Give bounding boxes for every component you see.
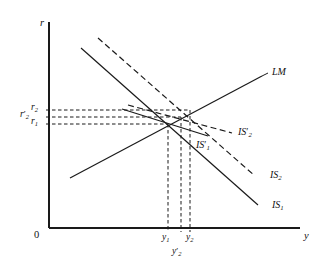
curve-label-IS1: IS1 [272, 200, 284, 212]
tick-y2p-sub: 2 [178, 250, 181, 257]
tick-label-r1: r1 [31, 117, 38, 127]
is-lm-figure: r y 0 r2 r′2 r1 y1 y2 y′2 LM IS′2 IS′1 I… [0, 0, 320, 266]
curve-label-IS2-prime: IS′2 [238, 127, 252, 139]
curve-label-IS2: IS2 [270, 170, 282, 182]
tick-r2p-sub: 2 [26, 113, 29, 120]
curve-LM-base: LM [272, 66, 286, 77]
y-axis-label: r [40, 18, 44, 29]
tick-label-y2-prime: y′2 [172, 247, 181, 257]
tick-label-y1: y1 [162, 233, 169, 243]
tick-r1-sub: 1 [35, 120, 38, 127]
curve-IS1 [81, 48, 258, 205]
curve-label-IS1-prime: IS′1 [196, 140, 210, 152]
leader-LM [262, 73, 268, 76]
label-leaders [262, 73, 268, 76]
origin-label: 0 [34, 230, 39, 241]
curve-label-LM: LM [272, 67, 286, 77]
curve-IS1-sub: 1 [280, 204, 283, 211]
plot-canvas [0, 0, 320, 266]
curve-IS2p-sub: 2 [248, 131, 251, 138]
curve-IS2 [98, 38, 255, 176]
curve-IS2-sub: 2 [278, 174, 281, 181]
curve-IS1p-sub: 1 [206, 144, 209, 151]
x-axis-label: y [304, 231, 309, 242]
tick-label-r2: r2 [31, 103, 38, 113]
curves-group [70, 38, 262, 205]
tick-y2-sub: 2 [190, 236, 193, 243]
tick-label-y2: y2 [186, 233, 193, 243]
tick-y1-sub: 1 [166, 236, 169, 243]
curve-LM [70, 76, 262, 178]
tick-label-r2-prime: r′2 [20, 110, 29, 120]
x-axis-label-text: y [304, 230, 309, 241]
y-axis-label-text: r [40, 17, 44, 28]
origin-label-text: 0 [34, 229, 39, 240]
rate-reference-lines [46, 110, 190, 124]
tick-r2-sub: 2 [35, 106, 38, 113]
